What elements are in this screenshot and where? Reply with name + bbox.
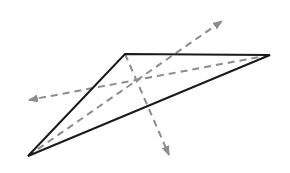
dashed-arrows [28,21,270,156]
arrow-left-icon [29,55,270,100]
arrow-down-icon [125,54,169,155]
triangle-diagram [0,0,290,173]
arrow-upper-right-icon [28,21,222,156]
triangle [28,54,270,156]
